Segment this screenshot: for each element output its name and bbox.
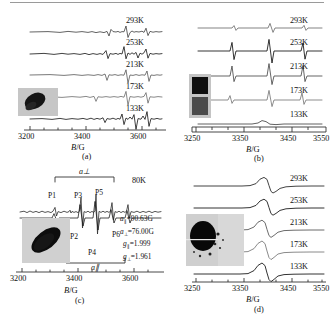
panel-b-id: (b) xyxy=(254,154,264,163)
panel-d-xtick-3450: 3450 xyxy=(280,284,296,293)
panel-d-temp-253K: 253K xyxy=(290,196,308,205)
panel-d-temp-133K: 133K xyxy=(290,262,308,271)
panel-d-temp-173K: 173K xyxy=(290,240,308,249)
panel-a-temp-293K: 293K xyxy=(126,16,144,25)
panel-b-temp-213K: 213K xyxy=(290,62,308,71)
panel-b-temp-133K: 133K xyxy=(290,110,308,119)
panel-a: 293K 253K 213K 173K 133K 3200 3400 3600 … xyxy=(8,6,168,161)
panel-a-temp-133K: 133K xyxy=(126,104,144,113)
panel-a-temp-173K: 173K xyxy=(126,82,144,91)
panel-a-xaxis-unit: /G xyxy=(76,142,85,152)
panel-d-temp-293K: 293K xyxy=(290,174,308,183)
panel-d-xaxis-label: B/G xyxy=(246,294,260,304)
panel-b-xaxis xyxy=(192,127,326,132)
panel-b-temp-293K: 293K xyxy=(290,16,308,25)
panel-d-xtick-3350: 3350 xyxy=(232,284,248,293)
trace-293K xyxy=(30,26,162,38)
panel-d-id: (d) xyxy=(254,305,264,314)
panel-b-inset-photo xyxy=(189,74,211,118)
panel-b-temp-253K: 253K xyxy=(290,38,308,47)
panel-d-xaxis xyxy=(192,278,326,282)
panel-d-xaxis-unit: /G xyxy=(251,294,260,304)
panel-c-id: (c) xyxy=(75,296,84,305)
panel-c-peak-P6: P6 xyxy=(112,230,120,239)
panel-b: 293K 253K 213K 173K 133K 3250 3350 3450 … xyxy=(172,6,332,161)
panel-b-xtick-3450: 3450 xyxy=(280,134,296,143)
figure-root: 293K 253K 213K 173K 133K 3200 3400 3600 … xyxy=(0,0,334,323)
panel-a-xaxis-label: B/G xyxy=(71,142,85,152)
panel-c-parameters: a∥=90.63G a⊥=76.00G g∥=1.999 g⊥=1.961 xyxy=(120,214,154,265)
panel-d-xtick-3250: 3250 xyxy=(184,284,200,293)
panel-c-peak-P3: P3 xyxy=(74,191,82,200)
panel-a-xtick-3200: 3200 xyxy=(18,132,34,141)
panel-a-xtick-3400: 3400 xyxy=(74,132,90,141)
param-a-parallel: a∥=90.63G xyxy=(120,214,154,227)
panel-c-temp-80K: 80K xyxy=(132,176,146,185)
panel-b-xtick-3550: 3550 xyxy=(313,134,329,143)
panel-d-temp-213K: 213K xyxy=(290,218,308,227)
panel-c-peak-P2: P2 xyxy=(70,232,78,241)
panel-c-xaxis-unit: /G xyxy=(69,285,78,295)
panel-c-inset-photo xyxy=(22,218,70,263)
top-rule xyxy=(10,2,324,3)
panel-c-peak-P4: P4 xyxy=(88,248,96,257)
panel-a-temp-213K: 213K xyxy=(126,60,144,69)
trace-253K xyxy=(30,47,162,59)
panel-a-inset-photo xyxy=(18,88,58,116)
panel-b-xtick-3250: 3250 xyxy=(184,134,200,143)
panel-c-peak-P1: P1 xyxy=(48,191,56,200)
panel-c-bracket-par-label: a∥ xyxy=(91,263,99,272)
panel-d-inset-photo xyxy=(186,214,244,266)
panel-a-xaxis xyxy=(24,126,166,130)
panel-c-xtick-3600: 3600 xyxy=(122,274,138,283)
panel-c-xaxis xyxy=(16,268,164,272)
bracket-perp xyxy=(55,177,114,182)
panel-c-xtick-3400: 3400 xyxy=(66,274,82,283)
panel-c-peak-P5: P5 xyxy=(95,188,103,197)
param-g-parallel: g∥=1.999 xyxy=(123,239,154,252)
panel-b-xtick-3350: 3350 xyxy=(232,134,248,143)
panel-b-temp-173K: 173K xyxy=(290,86,308,95)
panel-c-xtick-3200: 3200 xyxy=(10,274,26,283)
panel-a-id: (a) xyxy=(82,152,91,161)
param-g-perp: g⊥=1.961 xyxy=(123,252,154,265)
panel-c-xaxis-label: B/G xyxy=(64,285,78,295)
panel-c-bracket-perp-label: a⊥ xyxy=(79,167,90,176)
panel-a-plot xyxy=(8,6,168,144)
panel-b-xaxis-unit: /G xyxy=(251,144,260,154)
panel-d-xtick-3550: 3550 xyxy=(313,284,329,293)
param-a-perp: a⊥=76.00G xyxy=(120,227,154,240)
panel-b-xaxis-label: B/G xyxy=(246,144,260,154)
panel-a-xtick-3600: 3600 xyxy=(130,132,146,141)
panel-c: a⊥ a∥ 80K P1 P2 P3 P4 P5 P6 a∥=90.63G a⊥… xyxy=(8,166,168,323)
panel-d: 293K 253K 213K 173K 133K 3250 3350 3450 … xyxy=(172,166,332,323)
panel-a-temp-253K: 253K xyxy=(126,38,144,47)
trace-133K xyxy=(198,121,322,125)
